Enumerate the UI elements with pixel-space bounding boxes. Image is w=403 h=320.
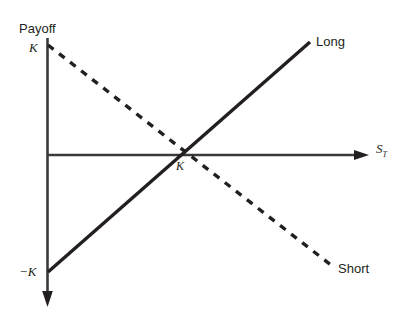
series-label-short: Short — [338, 262, 369, 275]
series-label-long: Long — [316, 35, 345, 48]
x-axis-title-subscript: T — [383, 150, 387, 159]
x-tick-label-strike-k: K — [176, 160, 184, 172]
y-axis-title: Payoff — [19, 22, 56, 35]
x-axis-title: ST — [376, 140, 387, 159]
y-tick-label-k-negative: −K — [19, 265, 36, 278]
y-tick-label-k-positive: K — [29, 41, 38, 54]
